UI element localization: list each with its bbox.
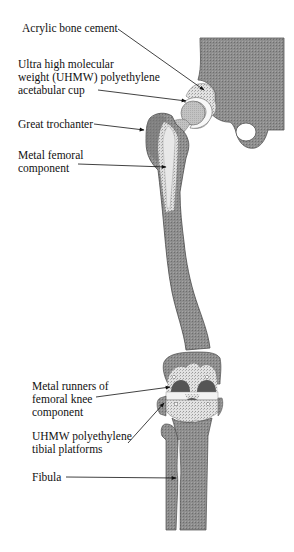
label-great-trochanter: Great trochanter	[18, 118, 93, 131]
arrow-fibula	[66, 477, 176, 478]
label-uhmw-tibial-platforms: UHMW polyethylene tibial platforms	[32, 430, 132, 456]
label-fibula: Fibula	[32, 471, 61, 484]
arrow-great-trochanter	[94, 124, 144, 130]
obturator-foramen	[236, 123, 256, 141]
label-acrylic-bone-cement: Acrylic bone cement	[22, 22, 118, 35]
tibia-bone	[172, 418, 212, 530]
fibula-bone	[161, 424, 178, 530]
label-metal-femoral-component: Metal femoral component	[18, 149, 83, 175]
arrow-tibial-platforms	[128, 403, 164, 443]
label-metal-runners-femoral-knee: Metal runners of femoral knee component	[32, 380, 109, 419]
label-uhmw-acetabular-cup: Ultra high molecular weight (UHMW) polye…	[18, 58, 160, 97]
